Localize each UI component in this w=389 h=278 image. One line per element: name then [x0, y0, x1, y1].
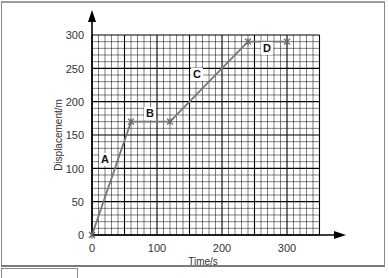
segment-label-c: C — [193, 68, 201, 80]
x-tick-label: 100 — [148, 242, 166, 254]
y-tick-label: 100 — [66, 163, 84, 175]
y-tick-label: 50 — [72, 196, 84, 208]
y-tick-label: 250 — [66, 63, 84, 75]
y-tick-label: 0 — [78, 229, 84, 241]
x-tick-label: 0 — [89, 242, 95, 254]
segment-label-a: A — [101, 153, 109, 165]
displacement-time-chart: 0 50 100 150 200 250 300 0 100 200 300 T… — [0, 0, 389, 278]
y-tick-labels: 0 50 100 150 200 250 300 — [66, 29, 84, 241]
y-axis-arrow-icon — [88, 10, 96, 22]
y-axis-title: Displacement/m — [53, 99, 64, 171]
y-tick-label: 300 — [66, 29, 84, 41]
x-tick-labels: 0 100 200 300 — [89, 242, 296, 254]
x-tick-label: 200 — [213, 242, 231, 254]
x-axis-title: Time/s — [188, 256, 218, 267]
segment-label-d: D — [263, 42, 271, 54]
y-tick-label: 150 — [66, 129, 84, 141]
x-axis-arrow-icon — [334, 231, 346, 239]
y-tick-label: 200 — [66, 96, 84, 108]
x-axis — [92, 231, 346, 239]
x-tick-label: 300 — [278, 242, 296, 254]
segment-label-b: B — [146, 107, 154, 119]
